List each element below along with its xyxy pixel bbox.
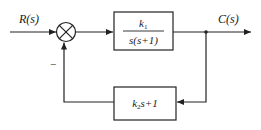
forward-denominator: s(s+1) bbox=[129, 34, 158, 47]
feedback-line-right bbox=[177, 32, 206, 102]
feedback-transfer-function: k2s+1 bbox=[132, 97, 158, 111]
feedback-line-left bbox=[64, 43, 114, 103]
forward-block: k1 s(s+1) bbox=[114, 12, 173, 50]
feedback-block: k2s+1 bbox=[114, 87, 176, 120]
minus-sign: − bbox=[50, 58, 56, 70]
block-diagram: R(s) − k1 s(s+1) C(s) k2s+1 bbox=[0, 0, 261, 130]
input-label: R(s) bbox=[18, 12, 39, 26]
summing-junction bbox=[57, 23, 76, 42]
output-label: C(s) bbox=[218, 12, 239, 26]
